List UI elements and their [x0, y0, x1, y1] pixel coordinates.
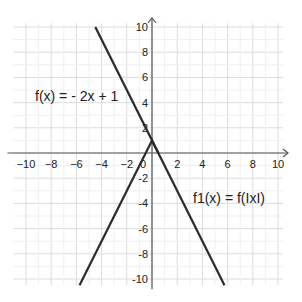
- x-tick-label: −2: [121, 158, 134, 170]
- x-tick-label: 10: [272, 158, 284, 170]
- x-tick-label: 8: [250, 158, 256, 170]
- y-tick-label: -6: [138, 223, 148, 235]
- y-tick-label: -2: [138, 172, 148, 184]
- y-tick-label: 4: [142, 97, 148, 109]
- coordinate-plane: −10−8−6−4−20246810-10-8-6-4-2246810: [0, 0, 302, 302]
- x-tick-label: −4: [95, 158, 108, 170]
- x-tick-label: 6: [225, 158, 231, 170]
- y-tick-label: 6: [142, 71, 148, 83]
- y-tick-label: -10: [132, 273, 148, 285]
- y-tick-label: -8: [138, 248, 148, 260]
- label-f: f(x) = - 2x + 1: [35, 88, 118, 104]
- y-tick-label: 10: [136, 21, 148, 33]
- label-f1: f1(x) = f(IxI): [193, 190, 265, 206]
- x-tick-label: 2: [174, 158, 180, 170]
- y-tick-label: -4: [138, 197, 148, 209]
- x-tick-label: −6: [70, 158, 83, 170]
- x-tick-label: 4: [199, 158, 205, 170]
- y-tick-label: 8: [142, 46, 148, 58]
- x-tick-label: −8: [45, 158, 58, 170]
- x-tick-label: −10: [17, 158, 36, 170]
